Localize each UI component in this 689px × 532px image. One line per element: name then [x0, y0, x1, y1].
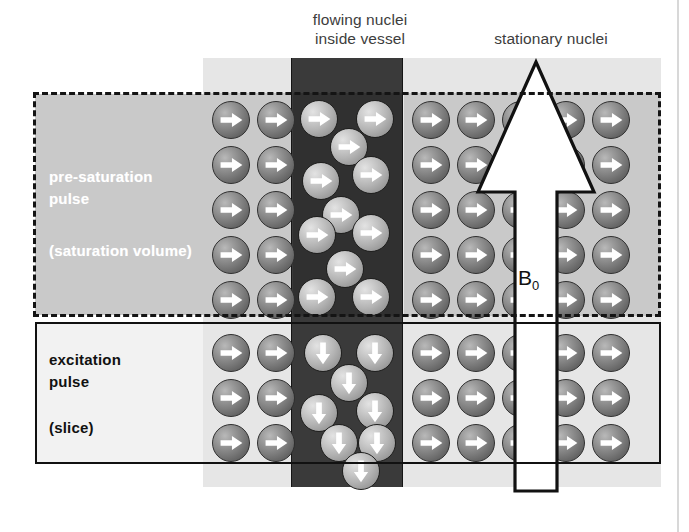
label-flowing-nuclei-inside-vessel: flowing nuclei inside vessel: [262, 10, 458, 48]
excitation-label-line1: excitation: [49, 351, 121, 368]
presaturation-label-line2: pulse: [49, 190, 89, 207]
label-stationary-nuclei: stationary nuclei: [444, 29, 658, 48]
figure-canvas: flowing nuclei inside vessel stationary …: [0, 0, 689, 532]
presaturation-volume-box: [33, 92, 661, 317]
excitation-slice-box: [35, 322, 661, 464]
page-edge-artifact: [677, 0, 679, 532]
excitation-label-line2: pulse: [49, 373, 89, 390]
presaturation-label-line3: (saturation volume): [49, 242, 192, 259]
excitation-label-line3: (slice): [49, 419, 94, 436]
presaturation-label-line1: pre-saturation: [49, 168, 153, 185]
